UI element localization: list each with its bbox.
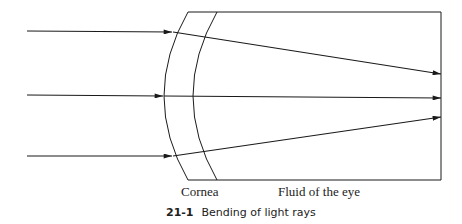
refracted-ray-bottom: [173, 117, 441, 156]
fluid-label: Fluid of the eye: [278, 184, 360, 200]
incoming-ray-top: [27, 31, 172, 32]
incoming-rays: [27, 31, 172, 156]
figure-title: Bending of light rays: [202, 206, 316, 219]
refracted-rays: [164, 32, 441, 156]
diagram-canvas: [0, 0, 462, 224]
refracted-ray-top: [173, 32, 441, 74]
incoming-ray-middle: [27, 95, 163, 96]
cornea-label: Cornea: [181, 184, 219, 200]
figure-number: 21-1: [166, 206, 194, 219]
refracted-ray-middle: [164, 96, 441, 98]
figure-caption: 21-1Bending of light rays: [166, 206, 316, 219]
